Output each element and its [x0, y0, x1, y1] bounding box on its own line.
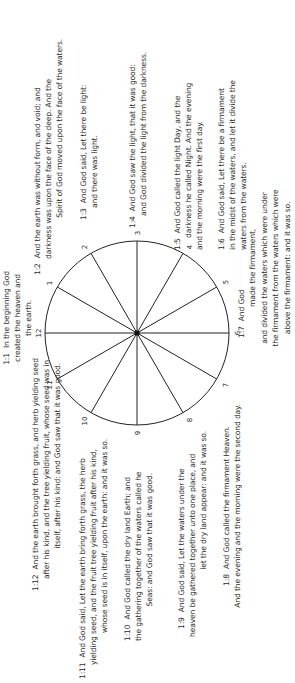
verse-1-9: 1:9And God said, Let the waters under th… — [176, 431, 210, 643]
verse-ref: 1:10 — [123, 625, 132, 641]
verse-ref: 1:6 — [217, 238, 226, 250]
verse-ref: 1:3 — [79, 208, 88, 220]
verse-ref: 1:5 — [173, 238, 182, 250]
hour-label-9: 9 — [134, 431, 142, 435]
hour-label-7: 7 — [222, 383, 230, 387]
verse-ref: 1:7 — [237, 326, 246, 338]
hour-label-5: 5 — [222, 280, 230, 284]
center-dot — [134, 330, 139, 335]
verse-ref: 1:4 — [128, 216, 137, 228]
verse-1-7: 1:7And God made the firmament, and divid… — [236, 188, 293, 348]
verse-1-8: 1:8And God called the firmament Heaven. … — [221, 391, 243, 621]
verse-1-1: 1:1In the beginning God created the heav… — [1, 258, 35, 378]
hour-label-1: 1 — [46, 281, 54, 285]
verse-ref: 1:2 — [33, 263, 42, 275]
verse-1-5: 1:5And God called the light Day, and the… — [172, 83, 206, 250]
verse-1-11: 1:11And God said, Let the earth bring fo… — [77, 429, 111, 679]
verse-ref: 1:8 — [222, 574, 231, 586]
hour-label-10: 10 — [81, 417, 89, 426]
verse-1-4: 1:4And God saw the light, that it was go… — [127, 52, 149, 228]
verse-ref: 1:12 — [31, 575, 40, 591]
verse-ref: 1:1 — [2, 353, 11, 365]
hour-label-12: 12 — [35, 329, 43, 338]
hour-label-2: 2 — [81, 245, 89, 249]
verse-ref: 1:9 — [177, 617, 186, 629]
verse-1-10: 1:10And God called the dry land Earth; a… — [122, 451, 156, 641]
verse-1-2: 1:2And the earth was without form, and v… — [32, 39, 66, 275]
hour-label-3: 3 — [134, 231, 142, 235]
verse-1-3: 1:3And God said, Let there be light: and… — [78, 85, 100, 220]
hour-label-8: 8 — [186, 418, 194, 422]
rotated-page: 1 2 3 4 5 6 7 8 9 10 11 12 1:1In the beg… — [0, 0, 295, 683]
verse-1-12: 1:12And the earth brought forth grass, a… — [30, 363, 64, 591]
verse-ref: 1:11 — [78, 663, 87, 679]
